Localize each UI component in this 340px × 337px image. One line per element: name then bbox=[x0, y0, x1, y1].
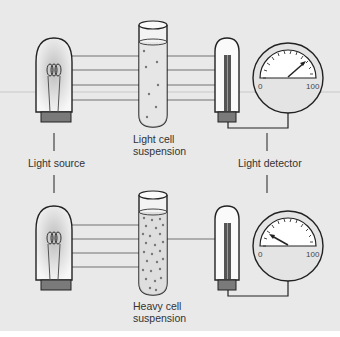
wire bbox=[228, 112, 288, 128]
light-setup bbox=[36, 21, 323, 128]
heavy-suspension-label-line1: Heavy cell bbox=[133, 300, 181, 312]
light-source-label: Light source bbox=[28, 157, 85, 169]
light-test-tube-icon bbox=[139, 21, 167, 127]
heavy-detector-icon bbox=[215, 206, 239, 290]
meter-min-label: 0 bbox=[258, 249, 262, 261]
light-meter-gauge bbox=[253, 43, 323, 113]
heavy-suspension-label-line2: suspension bbox=[133, 312, 186, 324]
heavy-setup bbox=[36, 191, 323, 296]
wire bbox=[228, 280, 288, 296]
meter-max-label: 100 bbox=[306, 249, 319, 261]
light-suspension-label-line1: Light cell bbox=[133, 133, 174, 145]
heavy-meter-gauge bbox=[253, 211, 323, 281]
heavy-test-tube-icon bbox=[139, 191, 167, 295]
light-detector-icon bbox=[215, 38, 239, 122]
meter-max-label: 100 bbox=[306, 81, 319, 93]
heavy-bulb-icon bbox=[36, 206, 72, 290]
light-bulb-icon bbox=[36, 38, 72, 122]
light-suspension-label-line2: suspension bbox=[133, 145, 186, 157]
light-detector-label: Light detector bbox=[238, 157, 302, 169]
meter-min-label: 0 bbox=[258, 81, 262, 93]
